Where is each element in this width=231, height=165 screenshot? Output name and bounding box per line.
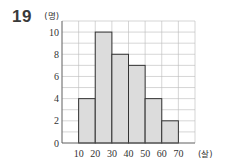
y-tick-label: 2 xyxy=(54,115,59,126)
histogram-bar xyxy=(95,32,112,143)
x-tick-label: 20 xyxy=(90,148,100,159)
y-tick-label: 0 xyxy=(54,138,59,149)
x-tick-label: 30 xyxy=(107,148,117,159)
x-axis-unit: (살) xyxy=(198,149,213,159)
histogram-bar xyxy=(79,99,96,143)
histogram-bar xyxy=(162,121,179,143)
x-tick-label: 60 xyxy=(157,148,167,159)
y-tick-label: 10 xyxy=(49,27,59,38)
x-tick-label: 70 xyxy=(173,148,183,159)
histogram-bar xyxy=(145,99,162,143)
y-tick-label: 8 xyxy=(54,49,59,60)
y-axis-unit: (명) xyxy=(44,11,59,21)
x-tick-label: 50 xyxy=(140,148,150,159)
y-tick-label: 6 xyxy=(54,71,59,82)
histogram-bar xyxy=(129,65,146,143)
x-tick-label: 40 xyxy=(124,148,134,159)
histogram-chart: 024681010203040506070(명)(살) xyxy=(0,0,231,165)
histogram-bar xyxy=(112,54,129,143)
x-tick-label: 10 xyxy=(74,148,84,159)
y-tick-label: 4 xyxy=(54,93,59,104)
